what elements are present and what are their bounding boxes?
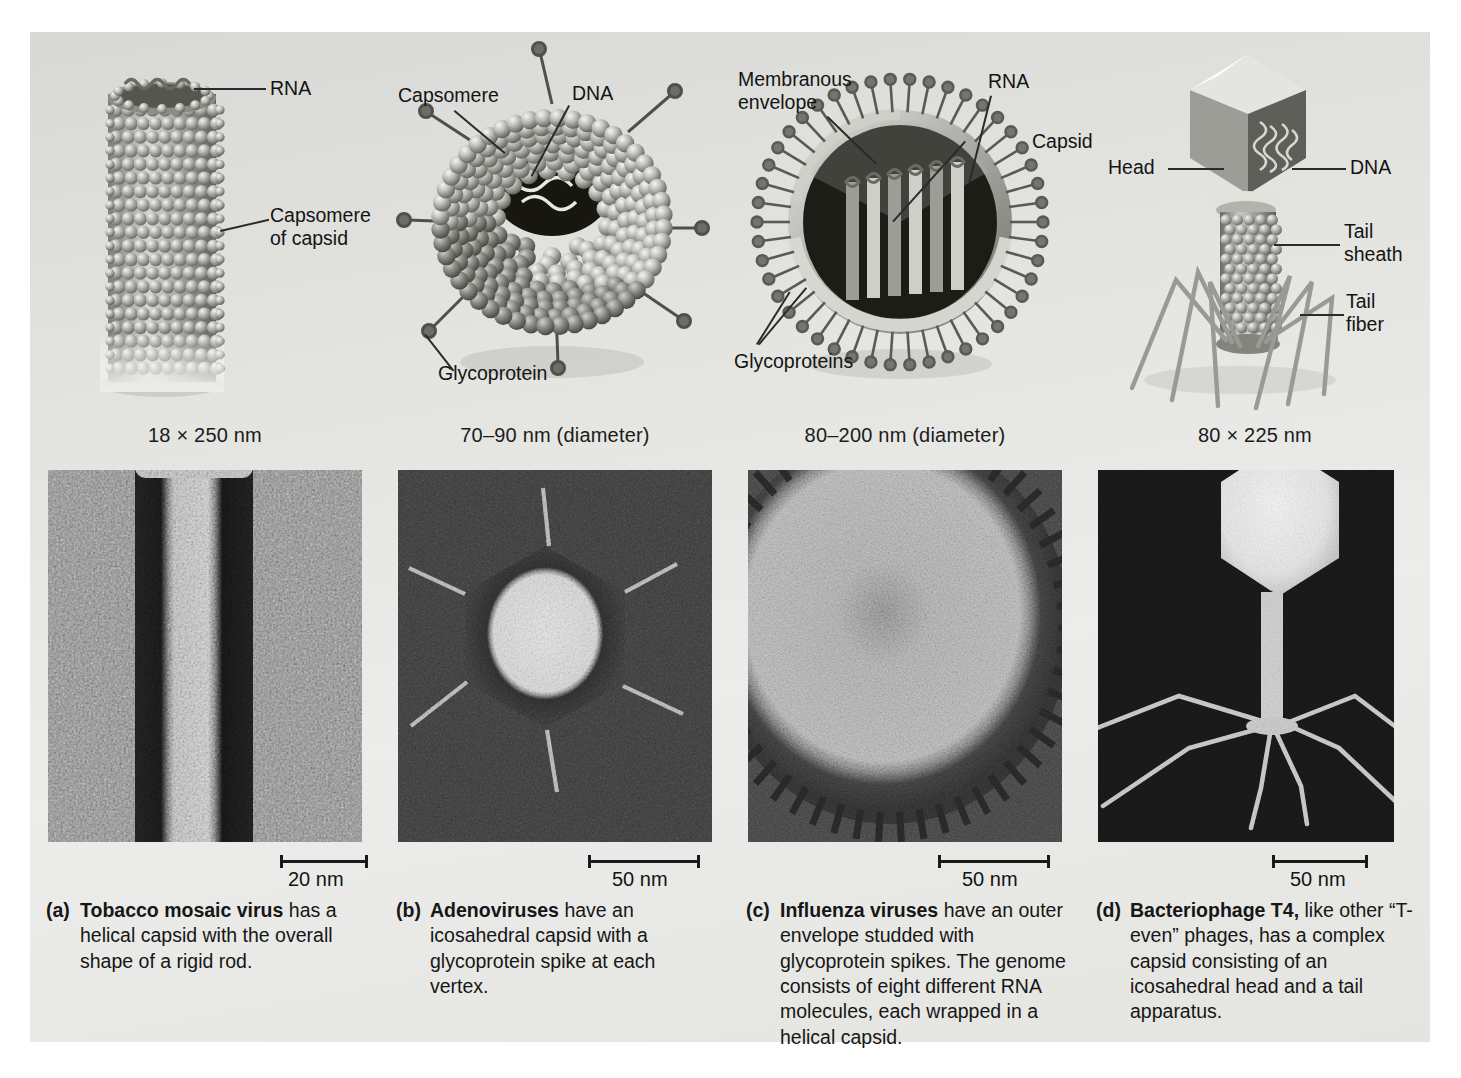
caption-marker-c: (c) — [746, 898, 780, 1050]
micrograph-adenovirus — [398, 470, 712, 842]
caption-term-c: Influenza viruses — [780, 899, 938, 921]
label-membranous-envelope: Membranous envelope — [738, 68, 852, 114]
panel-bacteriophage-t4: Head DNA Tail sheath Tail fiber 80 × 225… — [1080, 32, 1430, 1042]
caption-body-c: have an outer envelope studded with glyc… — [780, 899, 1066, 1048]
label-dna: DNA — [572, 82, 613, 105]
adenovirus-illustration: Capsomere DNA Glycoprotein — [380, 32, 730, 422]
caption-marker-d: (d) — [1096, 898, 1130, 1025]
phage-head — [1190, 54, 1306, 194]
caption-c: (c) Influenza viruses have an outer enve… — [746, 898, 1068, 1050]
tmv-illustration: RNA Capsomere of capsid — [30, 32, 380, 422]
label-dna-phage: DNA — [1350, 156, 1391, 179]
caption-term-b: Adenoviruses — [430, 899, 559, 921]
leader-rna — [194, 88, 266, 90]
caption-term-a: Tobacco mosaic virus — [80, 899, 283, 921]
label-capsomere-of-capsid: Capsomere of capsid — [270, 204, 371, 250]
scale-bar-b: 50 nm — [380, 850, 730, 896]
size-label-c: 80–200 nm (diameter) — [730, 424, 1080, 447]
size-label-a: 18 × 250 nm — [30, 424, 380, 447]
label-tail-sheath: Tail sheath — [1344, 220, 1403, 266]
virus-structure-figure: RNA Capsomere of capsid 18 × 250 nm — [30, 32, 1430, 1042]
leader-dna-phage — [1292, 168, 1346, 170]
label-tail-fiber: Tail fiber — [1346, 290, 1384, 336]
panel-tobacco-mosaic-virus: RNA Capsomere of capsid 18 × 250 nm — [30, 32, 380, 1042]
scale-bar-c: 50 nm — [730, 850, 1080, 896]
caption-b: (b) Adenoviruses have an icosahedral cap… — [396, 898, 718, 999]
influenza-illustration: Membranous envelope RNA Capsid Glycoprot… — [730, 32, 1080, 422]
micrograph-tmv — [48, 470, 362, 842]
size-label-d: 80 × 225 nm — [1080, 424, 1430, 447]
caption-marker-b: (b) — [396, 898, 430, 999]
leader-head — [1168, 168, 1224, 170]
label-capsomere: Capsomere — [398, 84, 499, 107]
caption-term-d: Bacteriophage T4, — [1130, 899, 1299, 921]
panel-influenza: Membranous envelope RNA Capsid Glycoprot… — [730, 32, 1080, 1042]
label-glycoproteins: Glycoproteins — [734, 350, 853, 373]
label-rna: RNA — [270, 77, 311, 100]
micrograph-influenza — [748, 470, 1062, 842]
caption-d: (d) Bacteriophage T4, like other “T-even… — [1096, 898, 1426, 1025]
label-glycoprotein: Glycoprotein — [438, 362, 547, 385]
label-rna-influenza: RNA — [988, 70, 1029, 93]
leader-tail-sheath — [1274, 244, 1340, 246]
scale-bar-a: 20 nm — [30, 850, 380, 896]
label-head: Head — [1108, 156, 1155, 179]
micrograph-phage — [1098, 470, 1394, 842]
scale-bar-d: 50 nm — [1080, 850, 1430, 896]
caption-marker-a: (a) — [46, 898, 80, 974]
panel-adenovirus: Capsomere DNA Glycoprotein 70–90 nm (dia… — [380, 32, 730, 1042]
caption-a: (a) Tobacco mosaic virus has a helical c… — [46, 898, 368, 974]
leader-tail-fiber — [1300, 314, 1344, 316]
size-label-b: 70–90 nm (diameter) — [380, 424, 730, 447]
phage-illustration: Head DNA Tail sheath Tail fiber — [1080, 32, 1430, 422]
